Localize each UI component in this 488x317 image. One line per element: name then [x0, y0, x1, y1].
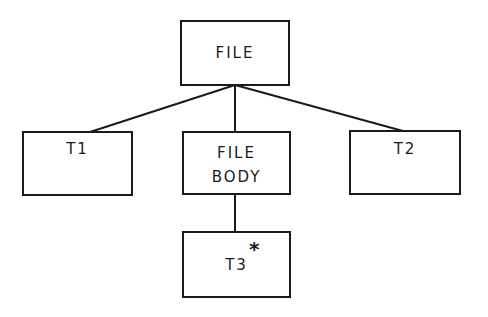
node-t3: T3 * — [182, 231, 291, 298]
node-t1-label: T1 — [66, 140, 89, 158]
edge-file-t2 — [235, 85, 403, 131]
node-t3-asterisk: * — [249, 239, 259, 259]
node-t1: T1 — [22, 131, 133, 196]
node-file-body-label-line1: FILE — [184, 143, 289, 163]
node-file-label: FILE — [216, 44, 255, 62]
node-t2: T2 — [349, 130, 461, 195]
edge-file-t1 — [90, 85, 235, 132]
node-file-body-label-line2: BODY — [184, 167, 289, 187]
node-t3-label: T3 — [225, 256, 248, 274]
node-t2-label: T2 — [394, 140, 417, 158]
node-file-body: FILE BODY — [182, 131, 291, 195]
node-file: FILE — [180, 20, 290, 86]
